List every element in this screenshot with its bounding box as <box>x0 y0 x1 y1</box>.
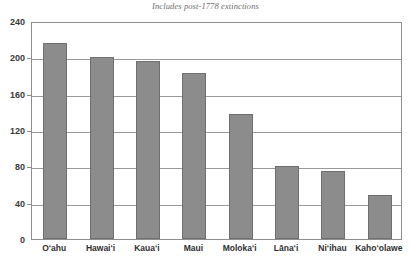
x-tick-label: Maui <box>184 243 203 254</box>
plot-area <box>31 22 402 240</box>
y-tick-label: 120 <box>10 127 25 136</box>
x-tick-label: Lānaʻi <box>274 243 299 254</box>
bar-chart: Native Hawaiian Land Snail Species by Is… <box>0 0 411 263</box>
x-axis: OʻahuHawaiʻiKauaʻiMauiMolokaʻiLānaʻiNiʻi… <box>31 243 402 259</box>
x-tick-label: Kahoʻolawe <box>355 243 402 254</box>
bar-kaho-olawe[interactable] <box>368 195 392 239</box>
y-tick-label: 200 <box>10 54 25 63</box>
y-tick-label: 80 <box>15 163 25 172</box>
y-tick-label: 40 <box>15 199 25 208</box>
bar-kaua-i[interactable] <box>136 61 160 239</box>
y-axis: 04080120160200240 <box>0 22 28 240</box>
x-tick-label: Kauaʻi <box>134 243 160 254</box>
x-tick-label: Oʻahu <box>42 243 66 254</box>
y-tick-label: 240 <box>10 18 25 27</box>
chart-subtitle: Includes post-1778 extinctions <box>0 1 411 11</box>
bar-l-na-i[interactable] <box>275 166 299 239</box>
y-tick-label: 160 <box>10 90 25 99</box>
bar-maui[interactable] <box>182 73 206 239</box>
bar-moloka-i[interactable] <box>229 114 253 239</box>
bars-layer <box>32 23 401 239</box>
bar-o-ahu[interactable] <box>43 43 67 239</box>
y-tick-label: 0 <box>20 236 25 245</box>
x-tick-label: Molokaʻi <box>223 243 257 254</box>
bar-hawai-i[interactable] <box>90 57 114 239</box>
bar-ni-ihau[interactable] <box>321 171 345 239</box>
x-tick-label: Hawaiʻi <box>86 243 115 254</box>
x-tick-label: Niʻihau <box>318 243 346 254</box>
